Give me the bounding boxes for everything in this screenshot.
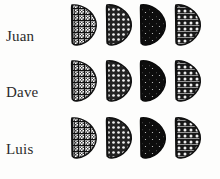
specimen-leaf-r0c2 [135, 2, 169, 48]
specimen-leaf-r2c2 [135, 115, 169, 161]
specimen-leaf-r1c2 [135, 58, 169, 104]
row-label-dave: Dave [6, 84, 64, 100]
row-label-juan: Juan [6, 28, 64, 44]
specimen-leaf-r0c3 [170, 2, 204, 48]
specimen-row: Juan [0, 2, 220, 58]
specimen-leaf-r1c0 [66, 58, 100, 104]
specimen-leaf-r0c1 [101, 2, 135, 48]
specimen-leaf-r2c1 [101, 115, 135, 161]
specimen-row: Luis [0, 115, 220, 171]
specimen-figure: Juan [0, 0, 220, 179]
specimen-row: Dave [0, 58, 220, 114]
specimen-leaf-r0c0 [66, 2, 100, 48]
specimen-leaf-r2c3 [170, 115, 204, 161]
specimen-leaf-r1c3 [170, 58, 204, 104]
specimen-leaf-r2c0 [66, 115, 100, 161]
specimen-leaf-r1c1 [101, 58, 135, 104]
row-label-luis: Luis [6, 141, 64, 157]
